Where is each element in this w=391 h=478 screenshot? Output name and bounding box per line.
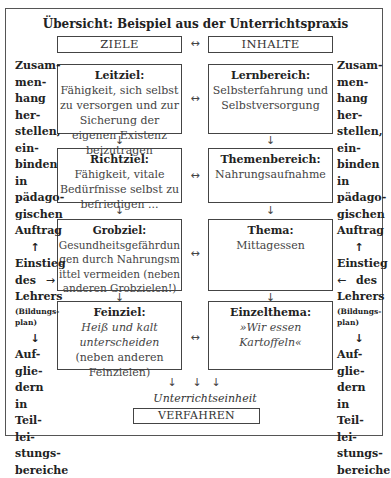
down-arrow-icon: ↓ xyxy=(57,204,182,217)
bildungsplan-note: (Bildungs-plan) xyxy=(15,306,55,328)
themenbereich-text: Nahrungsaufnahme xyxy=(215,168,326,181)
side-text: in xyxy=(337,174,381,191)
side-text: in xyxy=(337,397,381,414)
side-text: Teil- xyxy=(15,413,55,430)
side-text: in xyxy=(15,174,55,191)
ziele-header: ZIELE xyxy=(57,36,182,53)
side-text: stungs- xyxy=(15,446,55,463)
side-text: Lehrers xyxy=(337,289,381,306)
themenbereich-heading: Themenbereich: xyxy=(209,152,332,167)
link-arrow-icon: ↔ xyxy=(184,247,206,260)
link-arrow-icon: ↔ xyxy=(184,331,206,344)
grobziel-box: Grobziel: Gesundheitsgefährdungen durch … xyxy=(57,219,182,291)
richtziel-heading: Richtziel: xyxy=(58,152,181,167)
unterrichtseinheit-label: Unterrichtseinheit xyxy=(140,392,270,405)
left-arrow-icon: ← xyxy=(337,274,346,287)
side-text: Lehrers xyxy=(15,289,55,306)
down-arrow-icon: ↓ xyxy=(208,204,333,217)
side-text: des → xyxy=(15,273,55,290)
grobziel-heading: Grobziel: xyxy=(58,223,181,238)
richtziel-box: Richtziel: Fähigkeit, vitale Bedürfnisse… xyxy=(57,148,182,203)
side-text: bereiche xyxy=(15,463,55,478)
thema-text: Mittagessen xyxy=(236,239,305,252)
side-text: Auf- xyxy=(337,347,381,364)
lernbereich-box: Lernbereich: Selbsterfahrung und Selbstv… xyxy=(208,64,333,134)
side-text: Teil- xyxy=(337,413,381,430)
einzelthema-box: Einzelthema: »Wir essen Kartoffeln« xyxy=(208,301,333,370)
side-text: Zusam- xyxy=(15,58,55,75)
leitziel-heading: Leitziel: xyxy=(58,68,181,83)
side-text: ein- xyxy=(15,141,55,158)
side-text: lei- xyxy=(15,430,55,447)
side-text: glie- xyxy=(15,364,55,381)
side-text: stellen, xyxy=(337,124,381,141)
verfahren-box: VERFAHREN xyxy=(133,408,260,424)
side-text: des xyxy=(356,274,377,287)
right-arrow-icon: → xyxy=(46,274,55,287)
link-arrow-icon: ↔ xyxy=(184,37,206,50)
side-text: dern xyxy=(15,380,55,397)
down-arrow-icon: ↓ xyxy=(164,376,180,389)
lernbereich-text: Selbsterfahrung und Selbstversorgung xyxy=(213,84,328,112)
side-text: her- xyxy=(15,108,55,125)
side-text: her- xyxy=(337,108,381,125)
side-text: Einstieg xyxy=(15,256,55,273)
feinziel-italic: Heiß und kalt unterscheiden xyxy=(58,320,181,350)
down-arrow-icon: ↓ xyxy=(208,376,224,389)
side-text: binden xyxy=(337,157,381,174)
side-text: Auftrag xyxy=(15,223,55,240)
side-text: men- xyxy=(15,75,55,92)
up-arrow-icon: ↑ xyxy=(337,240,381,257)
side-text: in xyxy=(15,397,55,414)
side-text: hang xyxy=(337,91,381,108)
inhalte-header: INHALTE xyxy=(208,36,333,53)
themenbereich-box: Themenbereich: Nahrungsaufnahme xyxy=(208,148,333,203)
einzelthema-heading: Einzelthema: xyxy=(209,305,332,320)
side-text: dern xyxy=(337,380,381,397)
side-text: gischen xyxy=(15,207,55,224)
grobziel-text: Gesundheitsgefährdungen durch Nahrungsmi… xyxy=(59,239,180,295)
side-text: bereiche xyxy=(337,463,381,478)
side-text: hang xyxy=(15,91,55,108)
lernbereich-heading: Lernbereich: xyxy=(209,68,332,83)
down-arrow-icon: ↓ xyxy=(57,134,182,147)
side-text: gischen xyxy=(337,207,381,224)
feinziel-heading: Feinziel: xyxy=(58,305,181,320)
side-text: binden xyxy=(15,157,55,174)
up-arrow-icon: ↑ xyxy=(15,240,55,257)
down-arrow-icon: ↓ xyxy=(15,331,55,348)
down-arrow-icon: ↓ xyxy=(208,134,333,147)
feinziel-box: Feinziel: Heiß und kalt unterscheiden (n… xyxy=(57,301,182,370)
diagram-title: Übersicht: Beispiel aus der Unterrichtsp… xyxy=(0,17,391,31)
right-side-annotation: Zusam- men- hang her- stellen, ein- bind… xyxy=(337,58,381,478)
side-text: Auftrag xyxy=(337,223,381,240)
side-text: ein- xyxy=(337,141,381,158)
link-arrow-icon: ↔ xyxy=(184,169,206,182)
thema-heading: Thema: xyxy=(209,223,332,238)
bildungsplan-note: (Bildungs-plan) xyxy=(337,306,381,328)
leitziel-box: Leitziel: Fähigkeit, sich selbst zu vers… xyxy=(57,64,182,134)
side-text: stellen, xyxy=(15,124,55,141)
einzelthema-italic: »Wir essen Kartoffeln« xyxy=(239,321,302,349)
thema-box: Thema: Mittagessen xyxy=(208,219,333,291)
left-side-annotation: Zusam- men- hang her- stellen, ein- bind… xyxy=(15,58,55,478)
side-text: men- xyxy=(337,75,381,92)
side-text: des xyxy=(15,274,36,287)
side-text: pädago- xyxy=(337,190,381,207)
side-text: glie- xyxy=(337,364,381,381)
side-text: Auf- xyxy=(15,347,55,364)
side-text: stungs- xyxy=(337,446,381,463)
side-text: Zusam- xyxy=(337,58,381,75)
feinziel-text: (neben anderen Feinzielen) xyxy=(75,351,163,379)
down-arrow-icon: ↓ xyxy=(337,331,381,348)
side-text: Einstieg xyxy=(337,256,381,273)
side-text: ← des xyxy=(337,273,381,290)
down-arrow-icon: ↓ xyxy=(189,376,205,389)
side-text: pädago- xyxy=(15,190,55,207)
link-arrow-icon: ↔ xyxy=(184,92,206,105)
side-text: lei- xyxy=(337,430,381,447)
